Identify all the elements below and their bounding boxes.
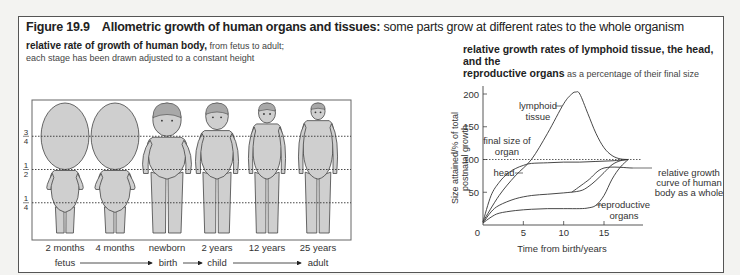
x-tick-label: 10 xyxy=(558,227,569,238)
annotation-lymphoid-2: tissue xyxy=(526,111,551,122)
annotation-body-curve-3: body as a whole xyxy=(655,187,724,198)
annotation-reproductive: reproductive xyxy=(598,199,650,210)
y-tick-label: 200 xyxy=(463,89,479,100)
growth-chart: 50100150200051015Time from birth/yearsSi… xyxy=(0,0,740,275)
annotation-lymphoid: lymphoid xyxy=(519,100,557,111)
annotation-final-size: final size of xyxy=(483,135,531,146)
y-axis-label-line2: postnatal growth xyxy=(460,125,470,191)
x-tick-label: 15 xyxy=(599,227,610,238)
y-tick-label: 50 xyxy=(468,187,479,198)
annotation-reproductive-2: organs xyxy=(609,210,638,221)
origin-label: 0 xyxy=(475,227,480,238)
y-axis-label-line1: Size attained/% of total xyxy=(450,112,460,204)
annotation-final-size-2: organ xyxy=(495,146,519,157)
x-axis-label: Time from birth/years xyxy=(517,243,607,254)
series-plateau xyxy=(572,167,633,192)
x-tick-label: 5 xyxy=(521,227,526,238)
annotation-head: head xyxy=(493,167,514,178)
